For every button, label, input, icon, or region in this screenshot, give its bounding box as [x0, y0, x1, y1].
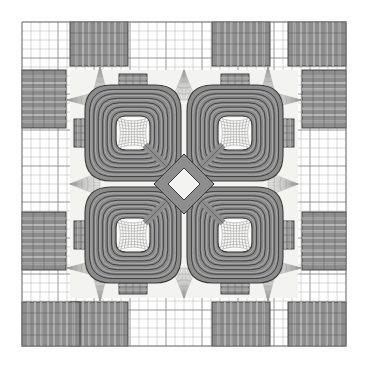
band-top-inner-right — [212, 22, 270, 66]
coil-top-right — [187, 85, 283, 181]
band-right-inner-top — [302, 70, 346, 128]
coil-bottom-left — [85, 187, 181, 283]
band-left-inner-bottom — [22, 212, 66, 270]
band-top-inner-left — [70, 22, 128, 66]
coil-top-left-core — [118, 118, 149, 149]
mesh-canvas — [0, 0, 368, 368]
coil-top-right-core — [220, 118, 251, 149]
coil-top-left — [85, 85, 181, 181]
mesh-figure — [0, 0, 368, 368]
coil-bottom-right-core — [220, 220, 251, 251]
band-bottom-corner-left — [22, 302, 80, 346]
coil-bottom-right — [187, 187, 283, 283]
band-left-inner-top — [22, 70, 66, 128]
band-bottom-inner-right — [212, 302, 270, 346]
band-top-corner-right — [288, 22, 346, 66]
coil-bottom-left-core — [118, 220, 149, 251]
band-bottom-corner-right — [288, 302, 346, 346]
band-right-inner-bottom — [302, 212, 346, 270]
